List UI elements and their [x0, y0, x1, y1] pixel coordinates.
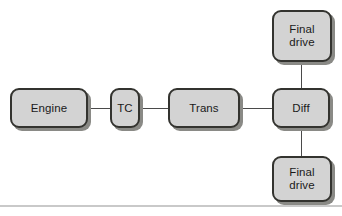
block-tc-label: TC: [115, 102, 135, 115]
connector-tc-to-trans: [140, 108, 168, 109]
block-tc[interactable]: TC: [110, 88, 140, 128]
block-final-drive-bottom-label: Final drive: [287, 166, 316, 192]
block-final-drive-top-label: Final drive: [287, 23, 316, 49]
connector-final-drive-top-to-diff: [301, 60, 302, 90]
block-final-drive-bottom[interactable]: Final drive: [272, 156, 332, 202]
block-trans-label: Trans: [187, 102, 220, 115]
bottom-divider: [0, 205, 342, 207]
block-final-drive-top[interactable]: Final drive: [272, 10, 332, 62]
block-engine[interactable]: Engine: [10, 88, 88, 128]
diagram-canvas: Engine TC Trans Diff Final drive Final d…: [0, 0, 342, 216]
block-diff-label: Diff: [290, 102, 311, 115]
connector-engine-to-tc: [88, 108, 110, 109]
block-diff[interactable]: Diff: [272, 88, 330, 128]
connector-diff-to-final-drive-bottom: [301, 126, 302, 158]
connector-trans-to-diff: [240, 108, 272, 109]
block-engine-label: Engine: [29, 102, 69, 115]
block-trans[interactable]: Trans: [168, 88, 240, 128]
